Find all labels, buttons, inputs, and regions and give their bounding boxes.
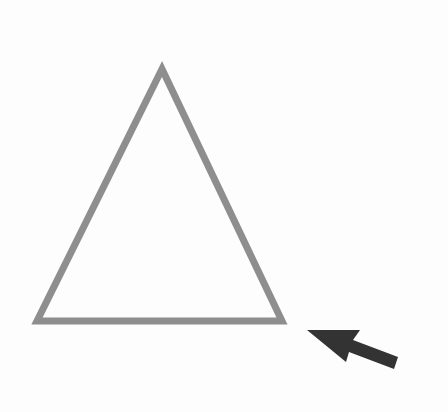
arrow-icon	[307, 330, 398, 369]
outline-triangle	[37, 69, 282, 321]
diagram-canvas	[0, 0, 448, 412]
